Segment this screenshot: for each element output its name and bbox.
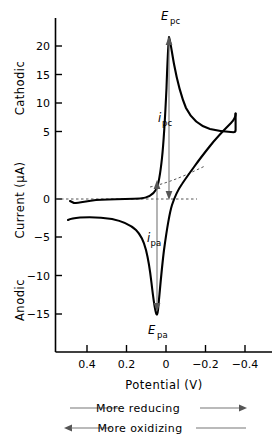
x-axis: 0.4 0.2 0 −0.2 −0.4 Potential (V) (56, 345, 273, 392)
legend-more-oxidizing: More oxidizing (64, 422, 246, 435)
more-reducing-label: More reducing (96, 402, 180, 415)
epa-symbol: E (148, 323, 156, 337)
more-reducing-arrowhead-icon (239, 405, 247, 412)
more-oxidizing-arrowhead-icon (64, 425, 72, 432)
x-ticklabel-minus0.2: −0.2 (192, 358, 219, 371)
ipc-subscript: pc (162, 118, 172, 128)
y-ticklabel-0: 0 (43, 193, 50, 206)
y-axis-region-anodic: Anodic (13, 279, 27, 321)
reverse-anodic-scan (68, 114, 236, 315)
y-ticklabel-5: 5 (43, 126, 50, 139)
epc-subscript: pc (170, 16, 180, 26)
ipa-subscript: pa (151, 238, 162, 248)
epc-label: E pc (161, 9, 180, 26)
x-axis-title: Potential (V) (125, 378, 202, 392)
y-ticklabel-20: 20 (36, 40, 50, 53)
legend-more-reducing: More reducing (70, 402, 247, 415)
x-ticklabel-0: 0 (163, 358, 170, 371)
y-ticklabel-10: 10 (36, 97, 50, 110)
y-ticklabel-15: 15 (36, 69, 50, 82)
y-axis: 20 15 10 5 0 −5 −10 −15 (27, 18, 62, 352)
epa-label: E pa (148, 323, 168, 340)
epc-symbol: E (161, 9, 169, 23)
direction-legend: More reducing More oxidizing (64, 402, 247, 435)
x-ticklabel-minus0.4: −0.4 (232, 358, 259, 371)
x-ticklabel-0.2: 0.2 (118, 358, 136, 371)
baseline-guides (56, 166, 205, 341)
y-axis-title: Current (μA) (13, 161, 27, 238)
forward-cathodic-scan (70, 37, 236, 203)
more-oxidizing-label: More oxidizing (97, 422, 182, 435)
epa-subscript: pa (157, 330, 168, 340)
cyclic-voltammogram-figure: 20 15 10 5 0 −5 −10 −15 0.4 0.2 0 −0.2 −… (0, 0, 277, 441)
x-ticklabel-0.4: 0.4 (78, 358, 96, 371)
voltammogram-trace (68, 37, 236, 314)
y-axis-region-cathodic: Cathodic (13, 61, 27, 116)
y-ticklabel-minus5: −5 (34, 231, 50, 244)
ipc-arrow-up (166, 36, 173, 45)
y-ticklabel-minus15: −15 (27, 308, 50, 321)
y-ticklabel-minus10: −10 (27, 270, 50, 283)
